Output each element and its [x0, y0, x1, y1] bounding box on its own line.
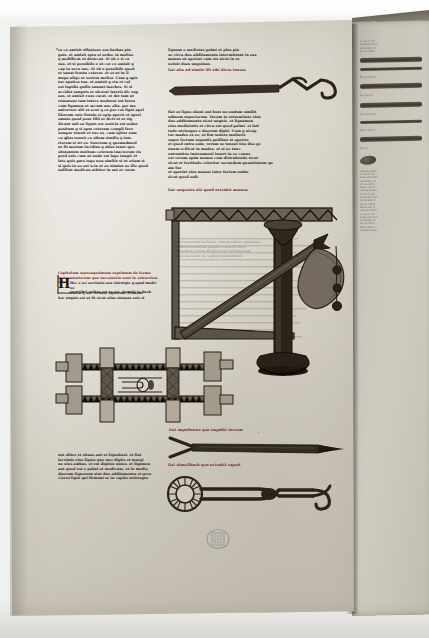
verso-line: uerum sanat	[360, 228, 422, 232]
left-text-column: os ce amisit effusione eas barbas pin gu…	[58, 48, 158, 278]
verso-text-column: et sit et sic cum uno lato sit firmat et…	[360, 39, 422, 538]
verso-cautery-icon	[360, 155, 376, 164]
text-line: ciores ligni qui firmant se in capita ut…	[58, 476, 158, 481]
verso-label: Et sic aperit	[360, 75, 422, 79]
text-line: sicut et fortitudo celeriter secundum qu…	[168, 161, 273, 170]
left-paragraph-continued: extremitatib q uoc virtutis lignorum. Pr…	[58, 291, 158, 300]
manuscript-viewport: et sit et sic cum uno lato sit firmat et…	[0, 0, 429, 638]
text-line: aut quod est e palmi et modicum. et in m…	[58, 467, 158, 472]
caption-instrument-1: fiat alia ad simile illi sibi dicta tenu…	[168, 68, 247, 72]
text-line: instrumentum balistae cum pondere suspen…	[174, 240, 266, 245]
caption-instrument-4: fiat almuffbach quo extrahit capud.	[168, 463, 241, 467]
bottom-surface-shadow	[0, 600, 429, 638]
right-text-column-top: lignum e medietas palmi et plus pin se c…	[168, 48, 273, 70]
right-text-column-middle: fiat ex ligno ebani aut buxi secundum si…	[168, 110, 273, 188]
verso-label: de eo	[360, 146, 422, 150]
caption-instrument-2: fiat unguinis alii quod extrahit annexa.	[168, 188, 249, 192]
text-line: lato quis pars tego non similis si ut et…	[58, 159, 158, 164]
verso-instrument-icon	[360, 136, 422, 142]
rubric-line: Capitulum septuagesimum septimum de form…	[58, 271, 158, 276]
figure-impeller-instrument	[168, 436, 346, 462]
text-line: uoluit duas unguinas.	[168, 62, 273, 67]
text-line: quod narratur in capitulo precedenti	[174, 254, 266, 259]
left-bottom-text-block: aut aliter et ebano aut et lignobuxi. et…	[58, 453, 158, 481]
verso-instrument-icon	[360, 83, 422, 89]
text-line: eius medietatis et circa est quod palmi,…	[168, 124, 273, 129]
fore-edge-shadow	[10, 20, 28, 616]
text-line: Hec e sci sectionis seu chirurgie q apud…	[70, 281, 158, 290]
text-line: hoc unguis est ut fit sicut alius sinuan…	[58, 296, 158, 301]
verso-line: dicat unc q	[360, 128, 422, 132]
verso-label: fiat ita ut	[360, 93, 422, 97]
library-ownership-stamp	[205, 528, 231, 550]
verso-label: extrahitur q	[360, 112, 422, 116]
text-line: nullitat modicus arbiter in ani et curat…	[58, 168, 158, 173]
verso-instrument-icon	[360, 67, 422, 71]
figure-balance-apparatus	[166, 196, 348, 426]
verso-instrument-icon	[360, 120, 422, 124]
caption-instrument-3: fiat impellentis quo impellit ferrum.	[169, 428, 244, 432]
verso-instrument-icon	[360, 57, 422, 63]
figure-almuffbach-extractor	[163, 472, 349, 516]
balance-underlying-text: instrumentum balistae cum pondere suspen…	[174, 240, 266, 259]
verso-line: sic ut aperi	[360, 49, 422, 53]
verso-instrument-icon	[360, 102, 422, 108]
text-line: sicut quod uult.	[168, 175, 273, 180]
figure-crank-hook-instrument	[167, 77, 343, 105]
